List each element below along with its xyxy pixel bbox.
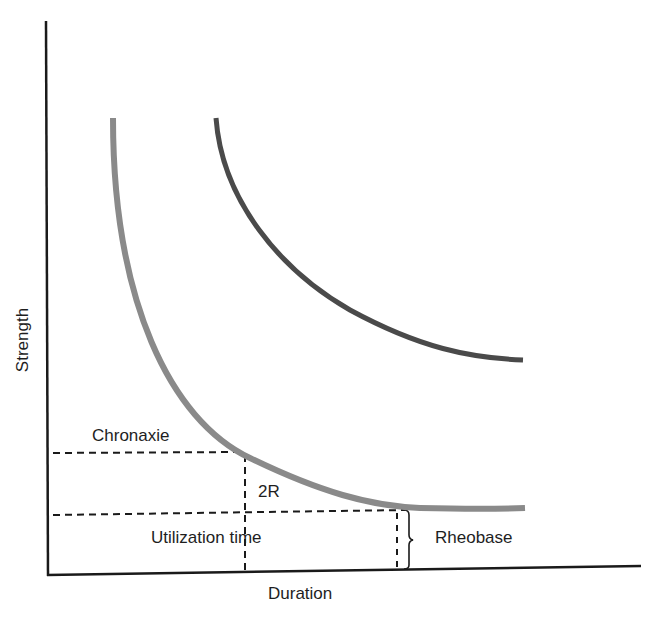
x-axis bbox=[47, 566, 641, 575]
dark-curve bbox=[216, 118, 523, 360]
y-axis-label: Strength bbox=[14, 308, 31, 372]
rheobase-brace-icon bbox=[404, 510, 413, 569]
y-axis bbox=[46, 21, 48, 576]
chronaxie-label: Chronaxie bbox=[92, 427, 170, 444]
chronaxie-horizontal-dashed-line bbox=[53, 452, 242, 453]
utilization-time-label: Utilization time bbox=[151, 529, 262, 546]
two-r-label: 2R bbox=[258, 483, 280, 500]
rheobase-label: Rheobase bbox=[435, 529, 513, 546]
x-axis-label: Duration bbox=[268, 585, 332, 602]
light-curve bbox=[113, 118, 525, 509]
rheobase-horizontal-dashed-line bbox=[53, 510, 405, 515]
strength-duration-diagram bbox=[0, 0, 648, 617]
